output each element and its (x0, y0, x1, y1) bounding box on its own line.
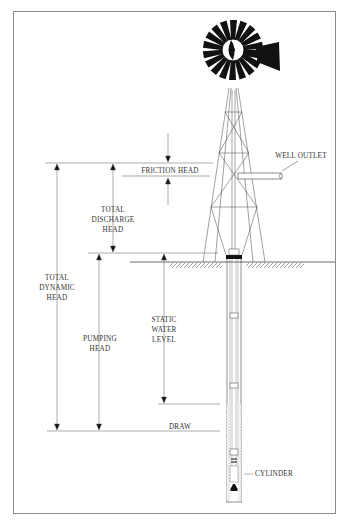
total-dynamic-head-label: TOTAL DYNAMIC HEAD (27, 273, 87, 303)
well-outlet-pipe (238, 161, 298, 179)
total-discharge-head-label: TOTAL DISCHARGE HEAD (82, 205, 144, 235)
ground-surface (130, 262, 335, 268)
well-outlet-label: WELL OUTLET (270, 151, 332, 161)
cylinder-label: CYLINDER (255, 469, 300, 479)
pump-cylinder (230, 449, 253, 491)
windmill-diagram (0, 0, 350, 526)
draw-label: DRAW (160, 422, 200, 432)
well-casing (226, 249, 242, 502)
pumping-head-label: PUMPING HEAD (70, 334, 130, 354)
friction-head-label: FRICTION HEAD (134, 166, 206, 176)
static-water-level-label: STATIC WATER LEVEL (138, 315, 190, 345)
windmill-wheel-icon (203, 20, 280, 80)
